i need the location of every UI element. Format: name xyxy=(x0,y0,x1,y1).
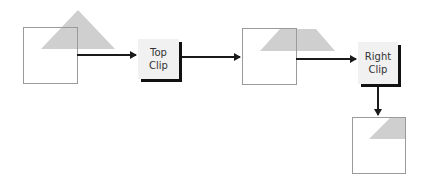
top-clip-label-2: Clip xyxy=(149,59,168,72)
clipped-shape xyxy=(369,118,405,139)
right-clip-box: Right Clip xyxy=(358,42,398,84)
right-clip-label-2: Clip xyxy=(369,63,388,76)
stage-right-clipped xyxy=(353,118,406,174)
top-clip-label-1: Top xyxy=(150,46,167,59)
clipping-diagram xyxy=(0,0,426,182)
stage-original xyxy=(24,10,116,84)
trapezoid-shape xyxy=(260,29,335,51)
right-clip-label-1: Right xyxy=(365,50,391,63)
stage-top-clipped xyxy=(243,29,336,85)
top-clip-box: Top Clip xyxy=(138,39,179,79)
